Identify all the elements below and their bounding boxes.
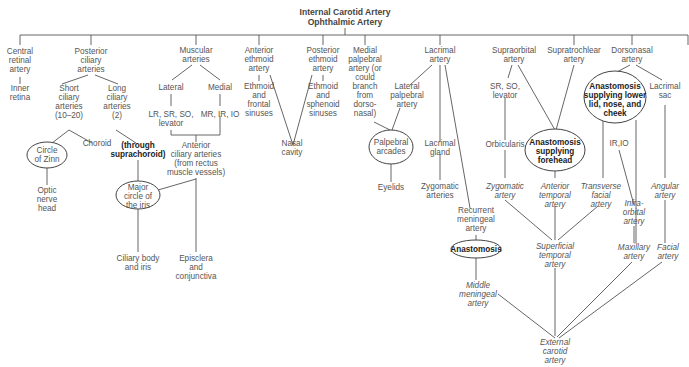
svg-text:Lacrimal: Lacrimal [425,46,456,55]
anastomosis-label: Anastomosis [450,245,502,254]
svg-text:Lacrimal: Lacrimal [650,82,681,91]
medial-label: Medial [208,83,232,92]
dorsonasal-artery-label: Dorsonasal artery [611,46,653,64]
svg-text:Maxillary: Maxillary [618,243,651,252]
svg-text:Medial: Medial [353,46,377,55]
svg-text:Circle: Circle [37,146,58,155]
svg-text:forehead: forehead [538,156,573,165]
svg-text:artery: artery [564,55,586,64]
svg-text:gland: gland [430,148,450,157]
svg-text:artery: artery [545,356,567,365]
svg-text:carotid: carotid [543,347,568,356]
svg-text:arteries: arteries [55,102,82,111]
svg-text:Inner: Inner [11,84,30,93]
supraorbital-muscles-label: SR, SO, levator [490,82,520,100]
svg-text:retinal: retinal [9,56,31,65]
svg-text:dorso-: dorso- [353,100,376,109]
eyelids-label: Eyelids [378,183,404,192]
svg-text:temporal: temporal [539,191,571,200]
svg-text:artery: artery [430,55,452,64]
ciliary-body-iris-label: Ciliary body and iris [117,254,161,272]
svg-text:Zygomatic: Zygomatic [485,182,524,191]
svg-text:Anterior: Anterior [245,46,274,55]
choroid-label: Choroid [83,139,112,148]
svg-text:Supraorbital: Supraorbital [492,46,536,55]
lacrimal-gland-label: Lacrimal gland [425,139,456,157]
svg-text:Optic: Optic [37,186,56,195]
svg-text:levator: levator [159,119,184,128]
svg-text:Posterior: Posterior [75,47,108,56]
circle-of-zinn-label: Circle of Zinn [34,146,59,164]
svg-text:levator: levator [493,91,518,100]
svg-text:Dorsonasal: Dorsonasal [611,46,653,55]
svg-text:Central: Central [7,47,34,56]
svg-text:meningeal: meningeal [459,290,497,299]
svg-text:Supratrochlear: Supratrochlear [547,46,601,55]
short-ciliary-arteries-label: Short ciliary arteries (10–20) [55,84,83,120]
svg-text:artery (or: artery (or [348,64,381,73]
svg-text:arteries: arteries [103,102,130,111]
svg-text:meningeal: meningeal [457,215,495,224]
svg-text:artery: artery [466,224,488,233]
svg-text:artery: artery [591,200,613,209]
svg-text:sac: sac [659,91,672,100]
svg-text:ethmoid: ethmoid [308,55,338,64]
svg-text:artery: artery [249,64,271,73]
svg-text:arteries: arteries [77,65,104,74]
svg-text:frontal: frontal [248,100,271,109]
svg-text:artery: artery [468,299,490,308]
anterior-ciliary-arteries-label: Anterior ciliary arteries (from rectus m… [167,141,226,177]
svg-text:from: from [357,91,374,100]
svg-text:artery: artery [624,252,646,261]
svg-text:could: could [355,73,375,82]
svg-text:nasal): nasal) [354,109,377,118]
svg-text:retina: retina [10,93,31,102]
svg-text:artery: artery [622,55,644,64]
svg-text:and: and [252,91,266,100]
svg-text:and iris: and iris [125,263,151,272]
svg-text:Angular: Angular [650,182,679,191]
lateral-muscles-label: LR, SR, SO, levator [148,110,193,128]
svg-text:Transverse: Transverse [581,182,622,191]
medial-muscles-label: MR, IR, IO [201,110,240,119]
svg-text:Recurrent: Recurrent [458,206,495,215]
ir-io-label: IR,IO [609,139,628,148]
svg-text:artery: artery [10,65,32,74]
inner-retina-label: Inner retina [10,84,31,102]
svg-text:Facial: Facial [657,243,679,252]
svg-text:orbital: orbital [623,208,645,217]
svg-text:Lacrimal: Lacrimal [425,139,456,148]
muscular-arteries-label: Muscular arteries [179,46,212,64]
svg-text:Infra-: Infra- [624,199,643,208]
ethmoid-frontal-sinuses-label: Ethmoid and frontal sinuses [244,82,274,118]
lacrimal-sac-label: Lacrimal sac [650,82,681,100]
svg-text:Episclera: Episclera [179,254,213,263]
svg-text:sphenoid: sphenoid [306,100,340,109]
svg-text:cheek: cheek [603,109,627,118]
svg-text:sinuses: sinuses [309,109,337,118]
lateral-palpebral-artery-label: Lateral palpebral artery [390,82,424,109]
svg-text:the iris: the iris [126,201,150,210]
facial-artery-label: Facial artery [657,243,679,261]
anterior-temporal-artery-label: Anterior temporal artery [539,182,571,209]
labels: Internal Carotid Artery Ophthalmic Arter… [7,7,681,365]
svg-text:artery: artery [545,200,567,209]
transverse-facial-artery-label: Transverse facial artery [581,182,622,209]
svg-text:Ethmoid: Ethmoid [308,82,338,91]
svg-text:Palpebral: Palpebral [374,138,409,147]
svg-text:Anterior: Anterior [182,141,211,150]
svg-text:ciliary arteries: ciliary arteries [171,150,222,159]
svg-text:Internal Carotid Artery: Internal Carotid Artery [300,7,391,17]
svg-text:Nasal: Nasal [282,139,303,148]
svg-text:artery: artery [624,217,646,226]
svg-text:cavity: cavity [282,148,304,157]
posterior-ciliary-arteries-label: Posterior ciliary arteries [75,47,108,74]
svg-text:artery: artery [313,64,335,73]
svg-text:SR, SO,: SR, SO, [490,82,520,91]
svg-text:ciliary: ciliary [59,93,81,102]
svg-text:Zygomatic: Zygomatic [421,182,459,191]
infraorbital-artery-label: Infra- orbital artery [623,199,646,226]
anterior-ethmoid-artery-label: Anterior ethmoid artery [244,46,274,73]
svg-text:artery: artery [397,100,419,109]
svg-text:supplying: supplying [536,147,575,156]
